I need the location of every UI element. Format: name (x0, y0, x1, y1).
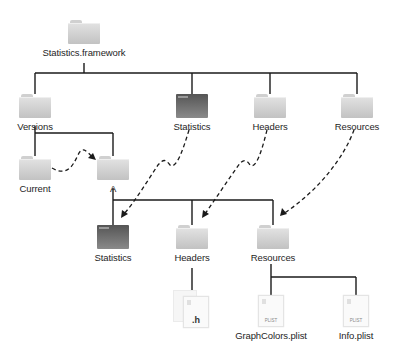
node-label: A (110, 183, 116, 194)
node-label: Current (20, 183, 51, 194)
node-header-files[interactable]: .h (170, 290, 210, 330)
node-label: Headers (174, 252, 209, 263)
node-a-resources[interactable]: Resources (245, 225, 301, 263)
folder-icon (19, 156, 51, 180)
node-label: GraphColors.plist (235, 330, 307, 341)
folder-icon (176, 225, 208, 249)
node-label: Statistics (173, 121, 210, 132)
node-headers-link[interactable]: Headers (245, 94, 295, 132)
node-info-plist[interactable]: PLIST Info.plist (326, 295, 386, 341)
node-current[interactable]: Current (10, 156, 60, 194)
node-a-statistics[interactable]: Statistics (88, 225, 138, 263)
plist-file-icon: PLIST (343, 295, 369, 327)
folder-icon (19, 94, 51, 118)
node-label: Statistics.framework (43, 47, 126, 58)
header-file-icon: .h (173, 290, 207, 330)
node-label: Versions (17, 121, 53, 132)
folder-icon (97, 156, 129, 180)
folder-icon (254, 94, 286, 118)
node-versions[interactable]: Versions (10, 94, 60, 132)
folder-icon (341, 94, 373, 118)
node-label: Info.plist (339, 330, 373, 341)
plist-file-icon: PLIST (258, 295, 284, 327)
folder-icon (68, 20, 100, 44)
node-label: Statistics (94, 252, 131, 263)
node-statistics-link[interactable]: Statistics (167, 94, 217, 132)
node-root-framework[interactable]: Statistics.framework (52, 20, 116, 58)
executable-icon (97, 225, 129, 249)
folder-icon (257, 225, 289, 249)
node-a-headers[interactable]: Headers (167, 225, 217, 263)
node-graphcolors-plist[interactable]: PLIST GraphColors.plist (226, 295, 316, 341)
node-resources-link[interactable]: Resources (329, 94, 385, 132)
node-a[interactable]: A (88, 156, 138, 194)
executable-icon (176, 94, 208, 118)
node-label: Headers (252, 121, 287, 132)
node-label: Resources (335, 121, 380, 132)
node-label: Resources (251, 252, 296, 263)
